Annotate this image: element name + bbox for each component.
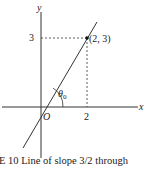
angle-label: θ0 — [58, 88, 67, 101]
y-tick-label: 3 — [29, 32, 34, 43]
slope-line — [23, 22, 97, 148]
y-axis-label: y — [36, 2, 42, 13]
origin-label: O — [43, 111, 50, 122]
x-tick-label: 2 — [84, 111, 89, 122]
figure-caption: RE 10 Line of slope 3/2 through — [0, 155, 128, 166]
point-label: (2, 3) — [89, 33, 111, 45]
x-axis-label: x — [138, 101, 144, 112]
diagram: y x O 2 3 (2, 3) θ0 — [0, 0, 145, 169]
